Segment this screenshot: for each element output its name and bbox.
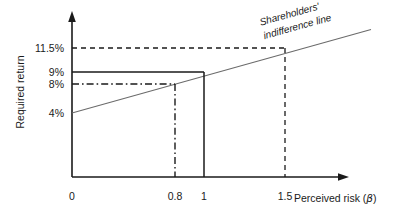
chart-figure: 11.5% 9% 8% 4% 0 0.8 1 1.5 Required retu… bbox=[0, 0, 398, 217]
y-axis-title: Required return bbox=[14, 44, 26, 140]
x-axis-title-prefix: Perceived risk ( bbox=[294, 192, 366, 204]
x-tick-label-0: 0 bbox=[55, 190, 89, 202]
x-axis-title: Perceived risk (β) bbox=[294, 192, 377, 204]
x-tick-label-1: 1 bbox=[187, 190, 221, 202]
x-axis-title-suffix: ) bbox=[373, 192, 377, 204]
